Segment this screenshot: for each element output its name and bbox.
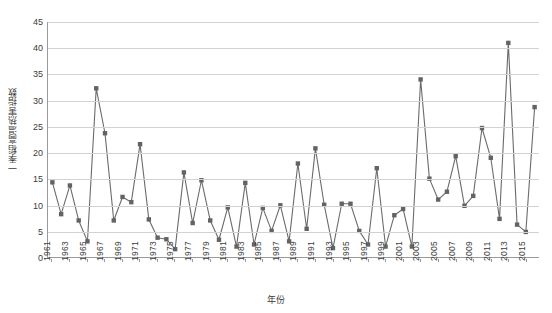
x-axis-tick-labels: 1961196319651967196919711973197519771979…: [47, 259, 539, 293]
y-tick-label: 30: [33, 96, 43, 106]
x-tick-label: 2011: [482, 242, 492, 261]
data-point-marker: [68, 183, 72, 187]
data-point-marker: [497, 217, 501, 221]
x-tick-label: 1983: [236, 241, 246, 261]
data-point-marker: [147, 217, 151, 221]
x-tick-label: 1991: [306, 241, 316, 261]
x-tick-label: 1969: [113, 241, 123, 261]
data-point-marker: [50, 180, 54, 184]
x-axis-title: 年份: [0, 293, 552, 306]
data-point-marker: [515, 222, 519, 226]
x-tick-label: 2003: [411, 241, 421, 261]
x-tick-label: 1993: [324, 241, 334, 261]
y-tick-label: 45: [33, 17, 43, 27]
data-point-marker: [445, 190, 449, 194]
x-tick-label: 1989: [288, 241, 298, 261]
x-tick-label: 1977: [183, 241, 193, 261]
data-point-marker: [401, 207, 405, 211]
x-tick-label: 2007: [447, 241, 457, 261]
x-tick-label: 2009: [464, 241, 474, 261]
y-tick-label: 15: [33, 174, 43, 184]
gridline: [48, 22, 539, 23]
data-point-marker: [375, 166, 379, 170]
x-tick-label: 1975: [165, 241, 175, 261]
x-tick-label: 1971: [130, 241, 140, 261]
x-tick-label: 2005: [429, 241, 439, 261]
x-tick-label: 1979: [201, 241, 211, 261]
x-tick-label: 1997: [359, 241, 369, 261]
data-point-marker: [532, 105, 536, 109]
data-point-marker: [471, 194, 475, 198]
x-tick-label: 2001: [394, 241, 404, 261]
data-point-marker: [313, 146, 317, 150]
x-tick-label: 1981: [218, 241, 228, 261]
temperature-index-line-chart: 一季稻高温热害指数 051015202530354045 19611963196…: [0, 0, 552, 313]
data-point-marker: [59, 212, 63, 216]
data-point-marker: [138, 142, 142, 146]
x-tick-label: 1967: [95, 241, 105, 261]
gridline: [48, 127, 539, 128]
data-point-marker: [304, 227, 308, 231]
data-point-marker: [489, 156, 493, 160]
data-point-marker: [94, 86, 98, 90]
data-point-marker: [418, 77, 422, 81]
data-point-marker: [112, 218, 116, 222]
y-tick-label: 10: [33, 201, 43, 211]
gridline: [48, 153, 539, 154]
x-tick-label: 1999: [376, 241, 386, 261]
y-tick-label: 5: [38, 227, 43, 237]
data-point-marker: [129, 200, 133, 204]
data-point-marker: [103, 131, 107, 135]
x-tick-label: 1963: [60, 241, 70, 261]
y-tick-label: 40: [33, 43, 43, 53]
x-tick-label: 1995: [341, 241, 351, 261]
data-point-marker: [120, 195, 124, 199]
x-tick-label: 1961: [42, 241, 52, 261]
data-point-marker: [392, 213, 396, 217]
data-point-marker: [454, 154, 458, 158]
x-tick-label: 1985: [253, 241, 263, 261]
gridline: [48, 48, 539, 49]
series-line-path: [48, 22, 539, 257]
data-point-marker: [296, 161, 300, 165]
y-tick-label: 25: [33, 122, 43, 132]
gridline: [48, 232, 539, 233]
gridline: [48, 101, 539, 102]
x-tick-label: 2013: [499, 241, 509, 261]
data-point-marker: [506, 41, 510, 45]
x-tick-label: 1973: [148, 241, 158, 261]
y-tick-label: 20: [33, 148, 43, 158]
plot-area: [47, 22, 539, 258]
x-tick-label: 1987: [271, 241, 281, 261]
data-point-marker: [155, 235, 159, 239]
data-point-marker: [436, 197, 440, 201]
data-point-marker: [76, 218, 80, 222]
y-axis-title-text: 一季稻高温热害指数: [5, 87, 18, 173]
y-tick-label: 35: [33, 69, 43, 79]
gridline: [48, 206, 539, 207]
y-axis-tick-labels: 051015202530354045: [22, 0, 46, 313]
data-point-marker: [190, 221, 194, 225]
x-tick-label: 2015: [517, 241, 527, 261]
gridline: [48, 74, 539, 75]
data-point-marker: [182, 170, 186, 174]
x-tick-label: 1965: [78, 241, 88, 261]
gridline: [48, 179, 539, 180]
y-axis-title: 一季稻高温热害指数: [0, 0, 22, 260]
data-point-marker: [243, 181, 247, 185]
data-point-marker: [208, 218, 212, 222]
